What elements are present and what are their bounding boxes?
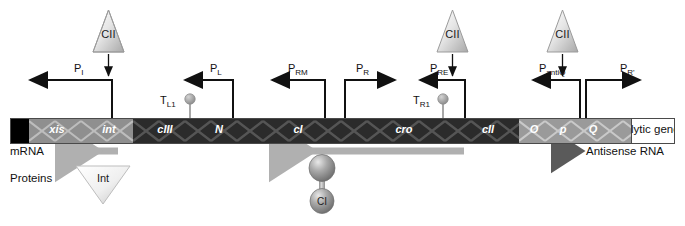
gene-label-cIII: cIII <box>137 123 193 135</box>
terminator-TL1 <box>185 94 195 119</box>
promoter-label-PRE: PRE <box>430 62 448 77</box>
ci-protein-label: CI <box>307 196 337 207</box>
promoter-label-PI: PI <box>74 62 84 77</box>
terminator-label-TR1: TR1 <box>413 94 430 109</box>
antisense-rna-label: Antisense RNA <box>586 145 664 157</box>
gene-label-cro: cro <box>351 123 457 135</box>
promoter-sub: RE <box>437 68 448 77</box>
promoter-label-PRM: PRM <box>288 62 308 77</box>
gene-label-Q: Q <box>577 123 609 135</box>
promoter-label-PRprime: PR' <box>620 62 635 77</box>
gene-label-int: int <box>85 123 133 135</box>
promoter-label-PL: PL <box>210 62 222 77</box>
promoter-sub: R <box>363 68 369 77</box>
gene-segment-cos <box>11 119 29 143</box>
promoter-arrow-PI <box>30 80 112 119</box>
promoter-sub: antiQ <box>546 68 565 77</box>
promoter-arrow-PR <box>345 80 395 119</box>
promoter-label-PantiQ: PantiQ <box>539 62 565 77</box>
promoter-sub: RM <box>295 68 307 77</box>
genome-bar: xis int cIII N cI cro cII O p Q lytic ge… <box>10 118 675 144</box>
gene-label-cI: cI <box>245 123 351 135</box>
terminator-name: T <box>160 94 167 106</box>
gene-label-lytic-genes: lytic genes <box>631 123 675 135</box>
promoter-arrow-PRM <box>272 80 325 119</box>
promoter-arrow-PRprime <box>586 80 640 119</box>
promoter-label-PR: PR <box>356 62 369 77</box>
gene-label-O: O <box>519 123 549 135</box>
gene-label-N: N <box>193 123 245 135</box>
terminator-sub: R1 <box>420 100 430 109</box>
lambda-regulatory-diagram: CII CII CII PI PL PRM PR PRE PantiQ PR' … <box>0 0 685 226</box>
gene-label-cII: cII <box>457 123 519 135</box>
promoter-sub: I <box>81 68 83 77</box>
terminator-sub: L1 <box>167 100 176 109</box>
cii-label-1: CII <box>78 28 140 40</box>
int-protein-label: Int <box>73 172 133 184</box>
cii-label-3: CII <box>532 28 594 40</box>
cii-label-2: CII <box>422 28 484 40</box>
promoter-sub: R' <box>627 68 634 77</box>
gene-label-p: p <box>549 123 577 135</box>
promoter-sub: L <box>217 68 221 77</box>
proteins-row-label: Proteins <box>10 172 52 184</box>
mrna-row-label: mRNA <box>10 145 44 157</box>
gene-label-xis: xis <box>29 123 85 135</box>
promoter-arrow-PantiQ <box>533 80 580 119</box>
terminator-label-TL1: TL1 <box>160 94 176 109</box>
terminator-TR1 <box>438 94 448 119</box>
terminator-name: T <box>413 94 420 106</box>
